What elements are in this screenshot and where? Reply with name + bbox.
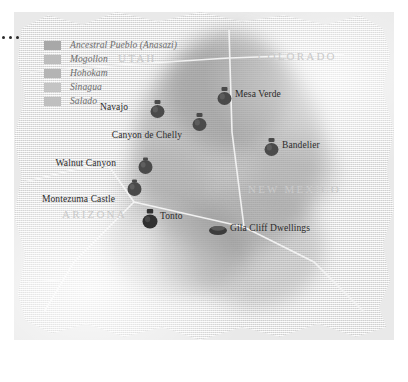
- legend-swatch-icon: [44, 41, 61, 50]
- southwest-cultures-map: Ancestral Pueblo (Anasazi) Mogollon Hoho…: [0, 0, 408, 382]
- legend-swatch-icon: [44, 55, 61, 64]
- legend-item-ancestral-pueblo: Ancestral Pueblo (Anasazi): [44, 38, 224, 52]
- corner-dot-2: [9, 36, 12, 39]
- legend-item-label: Salado: [70, 96, 97, 106]
- pot-icon: [148, 99, 167, 119]
- legend-item-mogollon: Mogollon: [44, 52, 224, 66]
- site-label: Mesa Verde: [235, 89, 281, 99]
- legend-item-label: Hohokam: [70, 68, 108, 78]
- legend-swatch-icon: [44, 83, 61, 92]
- ball-pot-icon: [136, 155, 155, 175]
- corner-dot-3: [16, 36, 19, 39]
- pot-icon: [140, 208, 160, 230]
- legend-swatch-icon: [44, 69, 61, 78]
- pot-icon: [190, 112, 209, 132]
- site-label: Tonto: [160, 211, 183, 221]
- site-label: Montezuma Castle: [42, 194, 115, 204]
- site-label: Gila Cliff Dwellings: [230, 223, 310, 233]
- pot-icon: [215, 86, 234, 106]
- legend-item-salado: Salado: [44, 94, 224, 108]
- legend-item-hohokam: Hohokam: [44, 66, 224, 80]
- corner-dot-1: [2, 36, 5, 39]
- pot-icon: [262, 137, 281, 157]
- legend-item-sinagua: Sinagua: [44, 80, 224, 94]
- site-label: Walnut Canyon: [56, 158, 116, 168]
- corner-dots-marker: [2, 36, 19, 39]
- legend-item-label: Sinagua: [70, 82, 102, 92]
- bowl-icon: [208, 223, 228, 237]
- legend-item-label: Ancestral Pueblo (Anasazi): [70, 40, 177, 50]
- legend: Ancestral Pueblo (Anasazi) Mogollon Hoho…: [44, 38, 224, 108]
- site-label: Bandelier: [282, 140, 320, 150]
- legend-swatch-icon: [44, 97, 61, 106]
- site-label: Navajo: [100, 102, 128, 112]
- legend-item-label: Mogollon: [70, 54, 108, 64]
- site-label: Canyon de Chelly: [112, 130, 182, 140]
- ball-pot-icon: [125, 177, 144, 197]
